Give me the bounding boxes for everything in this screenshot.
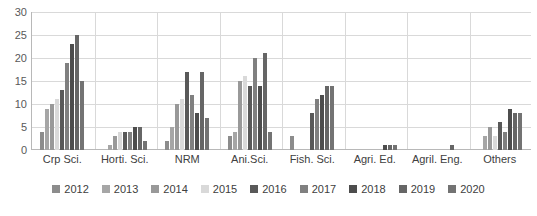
bar[interactable]	[508, 109, 512, 150]
bar[interactable]	[190, 95, 194, 150]
bar[interactable]	[40, 132, 44, 150]
y-axis: 051015202530	[0, 0, 27, 162]
legend-item[interactable]: 2017	[300, 184, 336, 195]
bar[interactable]	[233, 132, 237, 150]
bar[interactable]	[228, 136, 232, 150]
x-tick-label: Agri. Ed.	[354, 152, 396, 166]
bar[interactable]	[60, 90, 64, 150]
bar[interactable]	[388, 145, 392, 150]
legend-item[interactable]: 2018	[349, 184, 385, 195]
bar-group	[344, 12, 407, 150]
legend-item[interactable]: 2014	[151, 184, 187, 195]
bar-group	[469, 12, 532, 150]
bar[interactable]	[290, 136, 294, 150]
bar[interactable]	[513, 113, 517, 150]
bar[interactable]	[238, 81, 242, 150]
x-axis: Crp Sci.Horti. Sci.NRMAni.Sci.Fish. Sci.…	[31, 152, 531, 172]
bar[interactable]	[315, 99, 319, 150]
legend-label: 2017	[312, 184, 336, 195]
legend-label: 2013	[114, 184, 138, 195]
x-tick-label: Crp Sci.	[43, 152, 82, 166]
legend-label: 2019	[411, 184, 435, 195]
bar-group	[406, 12, 469, 150]
bars-layer	[31, 12, 531, 150]
legend-item[interactable]: 2013	[102, 184, 138, 195]
bar[interactable]	[498, 122, 502, 150]
bar[interactable]	[175, 104, 179, 150]
bar[interactable]	[75, 35, 79, 150]
legend-item[interactable]: 2015	[201, 184, 237, 195]
bar[interactable]	[195, 113, 199, 150]
bar[interactable]	[113, 136, 117, 150]
bar-group	[31, 12, 94, 150]
bar[interactable]	[133, 127, 137, 150]
bar[interactable]	[165, 141, 169, 150]
bar[interactable]	[243, 76, 247, 150]
bar[interactable]	[393, 145, 397, 150]
bar[interactable]	[185, 72, 189, 150]
legend-item[interactable]: 2016	[250, 184, 286, 195]
bar[interactable]	[180, 99, 184, 150]
legend-label: 2016	[262, 184, 286, 195]
legend-item[interactable]: 2012	[52, 184, 88, 195]
bar[interactable]	[80, 81, 84, 150]
bar-group	[156, 12, 219, 150]
bar[interactable]	[493, 136, 497, 150]
bar[interactable]	[65, 63, 69, 150]
legend-swatch	[399, 185, 407, 193]
bar[interactable]	[200, 72, 204, 150]
legend-swatch	[250, 185, 258, 193]
x-tick-label: Agril. Eng.	[412, 152, 463, 166]
bar[interactable]	[248, 86, 252, 150]
legend-item[interactable]: 2020	[448, 184, 484, 195]
bar[interactable]	[268, 132, 272, 150]
bar[interactable]	[488, 127, 492, 150]
bar[interactable]	[205, 118, 209, 150]
bar[interactable]	[383, 145, 387, 150]
x-tick-label: Fish. Sci.	[290, 152, 335, 166]
x-tick-label: NRM	[175, 152, 200, 166]
legend-label: 2015	[213, 184, 237, 195]
bar-group	[219, 12, 282, 150]
bar[interactable]	[50, 104, 54, 150]
bar[interactable]	[325, 86, 329, 150]
legend-label: 2014	[163, 184, 187, 195]
y-tick-label: 25	[0, 30, 27, 41]
legend-swatch	[52, 185, 60, 193]
y-tick-label: 0	[0, 145, 27, 156]
bar[interactable]	[128, 132, 132, 150]
bar[interactable]	[55, 99, 59, 150]
bar[interactable]	[503, 132, 507, 150]
bar[interactable]	[108, 145, 112, 150]
bar[interactable]	[483, 136, 487, 150]
y-tick-label: 5	[0, 122, 27, 133]
y-tick-label: 15	[0, 76, 27, 87]
legend-swatch	[201, 185, 209, 193]
bar[interactable]	[450, 145, 454, 150]
legend-swatch	[349, 185, 357, 193]
y-tick-label: 20	[0, 53, 27, 64]
bar[interactable]	[263, 53, 267, 150]
bar[interactable]	[138, 127, 142, 150]
bar-group	[281, 12, 344, 150]
bar-chart: 051015202530 Crp Sci.Horti. Sci.NRMAni.S…	[0, 0, 537, 216]
bar[interactable]	[123, 132, 127, 150]
bar[interactable]	[118, 132, 122, 150]
legend-swatch	[448, 185, 456, 193]
bar[interactable]	[143, 141, 147, 150]
x-tick-label: Ani.Sci.	[231, 152, 268, 166]
legend: 201220132014201520162017201820192020	[0, 176, 537, 202]
x-tick-label: Horti. Sci.	[101, 152, 149, 166]
bar[interactable]	[45, 109, 49, 150]
bar[interactable]	[253, 58, 257, 150]
bar[interactable]	[320, 95, 324, 150]
bar[interactable]	[310, 113, 314, 150]
legend-swatch	[151, 185, 159, 193]
bar[interactable]	[330, 86, 334, 150]
bar[interactable]	[70, 44, 74, 150]
bar[interactable]	[258, 86, 262, 150]
legend-label: 2012	[64, 184, 88, 195]
bar[interactable]	[170, 127, 174, 150]
legend-item[interactable]: 2019	[399, 184, 435, 195]
bar[interactable]	[518, 113, 522, 150]
